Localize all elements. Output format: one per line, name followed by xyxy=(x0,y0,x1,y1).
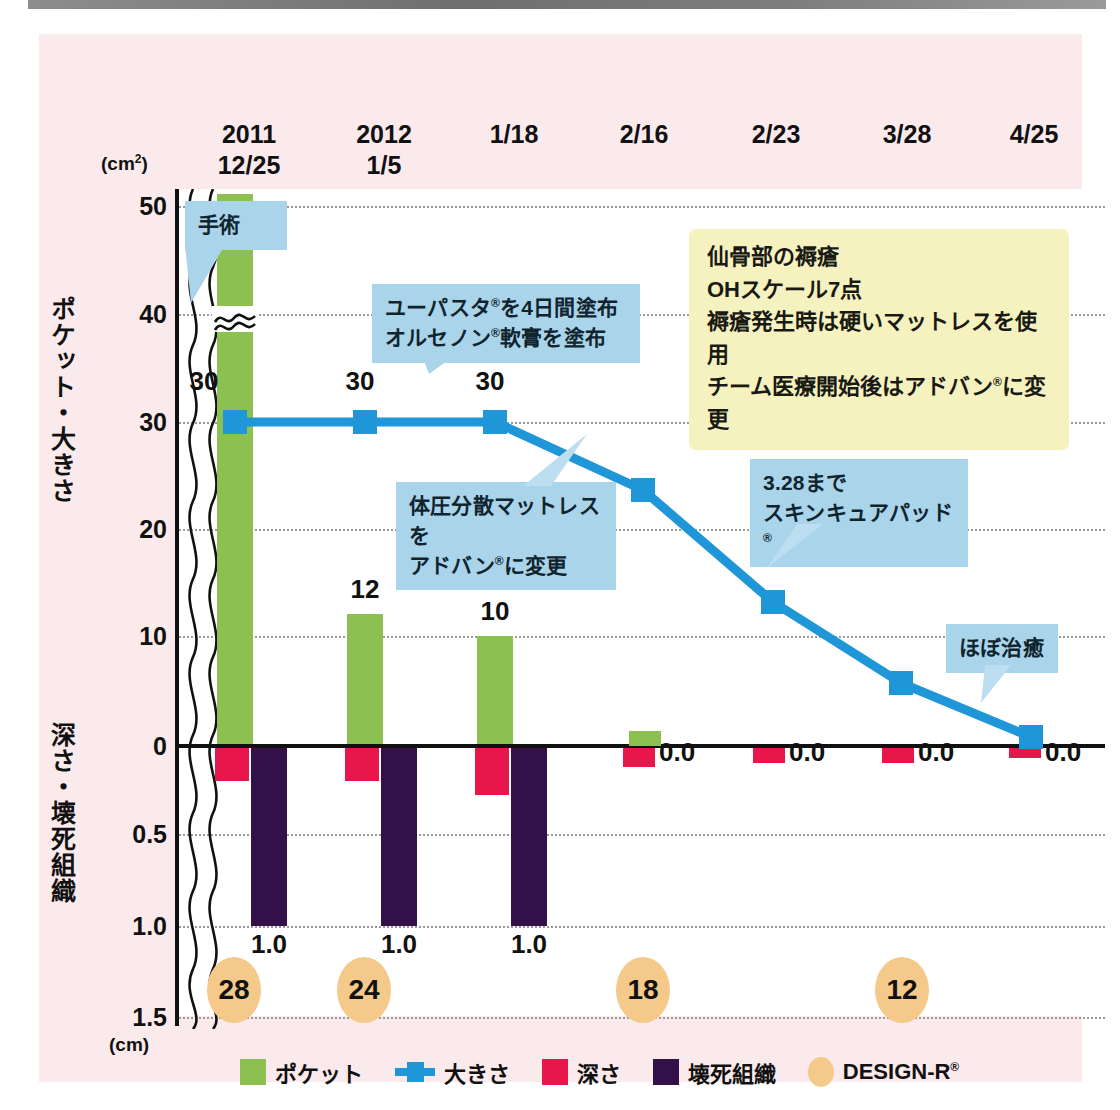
designr-bubble-1: 24 xyxy=(337,957,391,1023)
legend-label-depth: 深さ xyxy=(577,1056,621,1088)
callout-skincure-tail xyxy=(761,524,831,570)
legend-swatch-size xyxy=(395,1059,435,1085)
callout-mattress-tail xyxy=(517,434,597,488)
size-point-3 xyxy=(631,478,655,502)
y-tick-30: 30 xyxy=(105,408,167,437)
legend-swatch-necrosis xyxy=(653,1059,679,1085)
x-header-3: 2/16 xyxy=(569,119,719,150)
y-tick-40: 40 xyxy=(105,300,167,329)
legend-label-designr: DESIGN-R® xyxy=(843,1059,959,1085)
y-tick-0: 0 xyxy=(105,732,167,761)
legend-item-depth: 深さ xyxy=(542,1056,621,1088)
depth-value-6: 0.0 xyxy=(1001,737,1091,768)
size-value-0: 30 xyxy=(159,366,249,397)
x-header-0: 201112/25 xyxy=(174,119,324,180)
callout-ointment-line1: ユーパスタ®を4日間塗布 xyxy=(385,293,627,323)
size-point-5 xyxy=(889,671,913,695)
depth-value-5: 0.0 xyxy=(874,737,964,768)
size-point-1 xyxy=(353,410,377,434)
chart-panel: 50 40 30 20 10 0 0.5 1.0 1.5 (cm2) (cm) … xyxy=(39,34,1082,1082)
y-tick-1-5: 1.5 xyxy=(105,1003,167,1032)
necrosis-value-0: 1.0 xyxy=(224,929,314,960)
size-point-4 xyxy=(761,590,785,614)
callout-skincure-line1: 3.28まで xyxy=(763,468,955,498)
x-header-4: 2/23 xyxy=(701,119,851,150)
x-header-1: 20121/5 xyxy=(309,119,459,180)
legend-label-pocket: ポケット xyxy=(275,1056,363,1088)
size-value-1: 30 xyxy=(315,366,405,397)
unit-label-top: (cm2) xyxy=(101,152,148,175)
y-axis-label-lower: 深さ・壊死組織 xyxy=(49,722,74,904)
callout-ointment-tail xyxy=(419,348,479,376)
designr-bubble-5: 12 xyxy=(875,957,929,1023)
callout-mattress: 体圧分散マットレスを アドバン®に変更 xyxy=(396,482,616,590)
depth-value-4: 0.0 xyxy=(745,737,835,768)
y-tick-0-5: 0.5 xyxy=(105,820,167,849)
legend-item-size: 大きさ xyxy=(395,1056,510,1088)
note-clinical-summary: 仙骨部の褥瘡 OHスケール7点 褥瘡発生時は硬いマットレスを使用 チーム医療開始… xyxy=(689,229,1069,450)
chart-legend: ポケット 大きさ 深さ 壊死組織 DE xyxy=(78,1052,1120,1092)
legend-swatch-designr xyxy=(808,1057,834,1087)
note-line-2: OHスケール7点 xyxy=(707,274,1051,307)
necrosis-value-1: 1.0 xyxy=(354,929,444,960)
designr-bubble-0: 28 xyxy=(207,957,261,1023)
scan-top-bar xyxy=(28,0,1106,9)
designr-bubble-3: 18 xyxy=(616,957,670,1023)
callout-ointment: ユーパスタ®を4日間塗布 オルセノン®軟膏を塗布 xyxy=(372,284,640,363)
callout-mattress-line1: 体圧分散マットレスを xyxy=(409,491,603,551)
note-line-4: チーム医療開始後はアドバン®に変更 xyxy=(707,371,1051,436)
y-tick-20: 20 xyxy=(105,515,167,544)
note-line-1: 仙骨部の褥瘡 xyxy=(707,241,1051,274)
size-point-2 xyxy=(483,410,507,434)
legend-item-necrosis: 壊死組織 xyxy=(653,1056,776,1088)
x-header-6: 4/25 xyxy=(959,119,1109,150)
necrosis-value-2: 1.0 xyxy=(484,929,574,960)
callout-surgery-tail xyxy=(185,245,245,307)
pocket-value-2: 10 xyxy=(450,596,540,627)
legend-label-size: 大きさ xyxy=(444,1056,510,1088)
legend-swatch-depth xyxy=(542,1059,568,1085)
callout-healed-tail xyxy=(977,665,1027,705)
y-tick-1-0: 1.0 xyxy=(105,912,167,941)
callout-mattress-line2: アドバン®に変更 xyxy=(409,551,603,581)
legend-swatch-pocket xyxy=(240,1059,266,1085)
legend-item-pocket: ポケット xyxy=(240,1056,363,1088)
note-line-3: 褥瘡発生時は硬いマットレスを使用 xyxy=(707,306,1051,371)
x-header-2: 1/18 xyxy=(439,119,589,150)
depth-value-3: 0.0 xyxy=(615,737,705,768)
y-axis-label-upper: ポケット・大きさ xyxy=(49,296,74,504)
legend-item-designr: DESIGN-R® xyxy=(808,1057,959,1087)
chart-page: 50 40 30 20 10 0 0.5 1.0 1.5 (cm2) (cm) … xyxy=(0,0,1120,1110)
legend-label-necrosis: 壊死組織 xyxy=(688,1056,776,1088)
callout-surgery: 手術 xyxy=(185,201,287,250)
size-point-0 xyxy=(223,410,247,434)
y-tick-50: 50 xyxy=(105,192,167,221)
y-tick-10: 10 xyxy=(105,622,167,651)
